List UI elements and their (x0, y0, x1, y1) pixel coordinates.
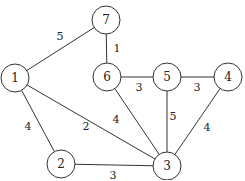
edge-weight-2-3: 3 (110, 169, 117, 181)
node-label: 6 (103, 70, 111, 84)
node-label: 4 (224, 70, 232, 84)
node-3: 3 (153, 152, 181, 180)
edge-weight-4-3: 4 (204, 121, 211, 134)
edge-weight-1-3: 2 (83, 120, 90, 133)
edge-weight-1-2: 4 (25, 120, 32, 133)
node-6: 6 (93, 63, 121, 91)
edge-weight-7-6: 1 (114, 42, 121, 55)
node-5: 5 (153, 63, 181, 91)
edge-weight-6-5: 3 (136, 81, 143, 94)
edge-1-3 (15, 78, 167, 166)
node-label: 2 (57, 157, 65, 171)
node-1: 1 (1, 64, 29, 92)
nodes-layer: 1234567 (1, 6, 242, 180)
edge-weight-6-3: 4 (113, 113, 120, 126)
node-label: 5 (163, 70, 171, 84)
edge-weight-1-7: 5 (57, 30, 64, 43)
edge-2-3 (61, 164, 167, 166)
node-label: 7 (102, 13, 110, 27)
node-2: 2 (47, 150, 75, 178)
edge-weight-5-3: 5 (170, 110, 177, 123)
node-label: 3 (163, 159, 171, 173)
node-4: 4 (214, 63, 242, 91)
graph-diagram: 5133424543 1234567 (0, 0, 245, 180)
node-label: 1 (11, 71, 19, 85)
edge-weight-5-4: 3 (194, 81, 201, 94)
node-7: 7 (92, 6, 120, 34)
